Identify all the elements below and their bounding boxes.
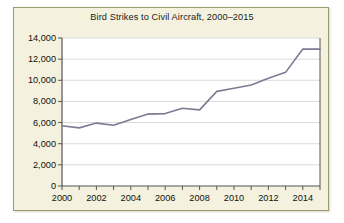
y-axis-tick-label: 0 <box>8 181 56 191</box>
x-axis-tick-label: 2006 <box>155 193 175 203</box>
x-axis-tick-label: 2014 <box>293 193 313 203</box>
y-axis-tick-label: 6,000 <box>8 118 56 128</box>
y-axis-tick-label: 10,000 <box>8 75 56 85</box>
y-axis-tick-label: 14,000 <box>8 33 56 43</box>
x-axis-ticks <box>62 186 320 190</box>
y-axis-tick-label: 12,000 <box>8 54 56 64</box>
plot-background <box>62 38 320 186</box>
x-axis-tick-label: 2012 <box>258 193 278 203</box>
x-axis-tick-label: 2004 <box>121 193 141 203</box>
x-axis-tick-label: 2010 <box>224 193 244 203</box>
x-axis-tick-label: 2002 <box>86 193 106 203</box>
x-axis-tick-label: 2008 <box>189 193 209 203</box>
y-axis-tick-label: 2,000 <box>8 160 56 170</box>
y-axis-tick-label: 8,000 <box>8 96 56 106</box>
y-axis-tick-label: 4,000 <box>8 139 56 149</box>
chart-figure: Bird Strikes to Civil Aircraft, 2000–201… <box>0 0 344 223</box>
x-axis-tick-label: 2000 <box>52 193 72 203</box>
